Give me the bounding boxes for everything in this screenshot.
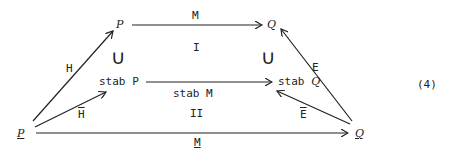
node-Q: Q [267, 19, 276, 30]
node-stab-Q: stab Q [278, 76, 320, 87]
node-Q-underlined: Q [355, 128, 364, 139]
stab-P-var: P [132, 75, 139, 88]
node-stab-P: stab P [99, 76, 139, 87]
label-E-bar: E [300, 109, 307, 120]
subset-icon-left: ∪ [111, 47, 126, 67]
label-E: E [312, 62, 319, 73]
label-M-underlined: M [194, 137, 201, 148]
node-P-underlined: P [17, 128, 24, 139]
stab-prefix: stab [99, 75, 126, 88]
region-label-II: II [190, 108, 203, 119]
subset-icon-right: ∪ [261, 47, 276, 67]
arrow-H-bar [35, 92, 106, 127]
label-stab-M: stab M [173, 88, 213, 99]
stab-prefix: stab [278, 75, 305, 88]
diagram-arrows [0, 0, 449, 154]
label-M: M [192, 10, 199, 21]
stab-Q-var: Q [311, 75, 320, 88]
region-label-I: I [193, 42, 200, 53]
equation-number: (4) [417, 79, 437, 90]
node-P: P [116, 19, 123, 30]
label-H-bar: H [78, 109, 85, 120]
commutative-diagram: P Q stab P stab Q P Q M stab M M H H E E… [0, 0, 449, 154]
arrow-E-bar [277, 91, 350, 124]
label-H: H [66, 63, 73, 74]
